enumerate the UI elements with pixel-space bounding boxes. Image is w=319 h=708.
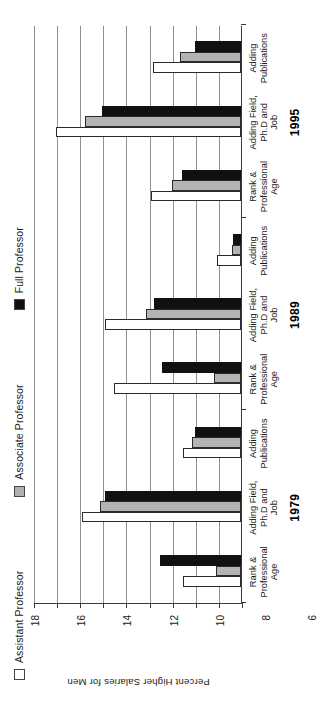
y-axis-tick: 2 xyxy=(219,603,220,608)
legend-item-associate-professor: Associate Professor xyxy=(13,384,25,496)
bar xyxy=(146,309,241,320)
legend-item-assistant-professor: Assistant Professor xyxy=(13,571,25,680)
category-label-line: Publications xyxy=(259,26,270,90)
y-axis-tick: 16 xyxy=(57,603,58,608)
y-axis-tick: 18 xyxy=(34,603,35,608)
category-label-line: Rank & xyxy=(248,154,259,218)
x-axis-tick xyxy=(241,217,246,218)
y-axis-tick-label: 10 xyxy=(214,615,225,626)
bar xyxy=(232,245,241,256)
bar xyxy=(162,362,241,373)
chart-legend: Assistant Professor Associate Professor … xyxy=(6,18,32,688)
x-axis-category-label: AddingPublications xyxy=(248,26,269,90)
bar xyxy=(182,170,241,181)
bar xyxy=(114,383,241,394)
category-label-line: Publications xyxy=(259,411,270,475)
bar xyxy=(183,448,241,459)
bar xyxy=(105,491,241,502)
y-axis-tick: 14 xyxy=(80,603,81,608)
legend-label-associate-professor: Associate Professor xyxy=(13,384,25,479)
bar xyxy=(85,116,241,127)
group-year-label: 1979 xyxy=(288,411,302,604)
category-label-line: Job xyxy=(269,476,280,540)
x-axis-category-label: Adding Field,Ph.D andJob xyxy=(248,476,280,540)
category-label-line: Job xyxy=(269,90,280,154)
category-label-line: Rank & xyxy=(248,347,259,411)
bar xyxy=(102,106,241,117)
bar xyxy=(216,566,241,577)
group-year-label: 1989 xyxy=(288,219,302,412)
legend-label-assistant-professor: Assistant Professor xyxy=(13,571,25,663)
gridline xyxy=(34,26,35,603)
y-axis-tick-label: 18 xyxy=(30,615,41,626)
bar xyxy=(192,437,241,448)
category-label-line: Adding Field, xyxy=(248,476,259,540)
category-label-line: Adding xyxy=(248,411,259,475)
y-axis-tick: 8 xyxy=(150,603,151,608)
category-label-line: Age xyxy=(269,347,280,411)
y-axis-tick-label: 12 xyxy=(168,615,179,626)
plot-area: 024681012141618 xyxy=(34,26,242,604)
x-axis-category-label: AddingPublications xyxy=(248,219,269,283)
x-axis-tick xyxy=(241,602,246,603)
x-axis-category-label: Adding Field,Ph.D andJob xyxy=(248,283,280,347)
y-axis-tick: 4 xyxy=(196,603,197,608)
bar xyxy=(151,191,241,202)
category-label-line: Job xyxy=(269,283,280,347)
y-axis-tick: 12 xyxy=(103,603,104,608)
y-axis-tick: 10 xyxy=(126,603,127,608)
bar xyxy=(154,298,241,309)
bar xyxy=(183,576,241,587)
category-label-line: Adding Field, xyxy=(248,283,259,347)
bar xyxy=(105,319,241,330)
x-axis-category-label: Rank &ProfessionalAge xyxy=(248,347,280,411)
bar xyxy=(195,41,241,52)
category-label-line: Professional xyxy=(259,347,270,411)
y-axis-tick-label: 8 xyxy=(261,615,272,621)
white-square-icon xyxy=(14,669,25,680)
category-label-line: Ph.D and xyxy=(259,476,270,540)
bar xyxy=(195,427,241,438)
y-axis-tick-label: 6 xyxy=(307,615,318,621)
category-label-line: Publications xyxy=(259,219,270,283)
bar xyxy=(100,501,241,512)
category-label-line: Ph.D and xyxy=(259,90,270,154)
bar xyxy=(153,62,241,73)
bar xyxy=(217,255,241,266)
bar xyxy=(160,555,241,566)
category-label-line: Adding xyxy=(248,26,259,90)
bar xyxy=(56,127,241,138)
x-axis-tick xyxy=(241,409,246,410)
x-axis-category-label: AddingPublications xyxy=(248,411,269,475)
category-label-line: Professional xyxy=(259,154,270,218)
group-year-label: 1995 xyxy=(288,26,302,219)
rotated-figure-wrapper: Assistant Professor Associate Professor … xyxy=(0,0,319,708)
category-label-line: Professional xyxy=(259,540,270,604)
x-axis-category-label: Rank &ProfessionalAge xyxy=(248,154,280,218)
x-axis-category-label: Rank &ProfessionalAge xyxy=(248,540,280,604)
category-label-line: Rank & xyxy=(248,540,259,604)
y-axis-tick-label: 16 xyxy=(76,615,87,626)
bar xyxy=(180,52,241,63)
y-axis-title: Percent Higher Salaries for Men xyxy=(34,676,242,690)
x-axis-tick xyxy=(241,24,246,25)
bar xyxy=(82,512,241,523)
x-axis-category-label: Adding Field,Ph.D andJob xyxy=(248,90,280,154)
chart-figure: Assistant Professor Associate Professor … xyxy=(0,0,319,708)
category-label-line: Ph.D and xyxy=(259,283,270,347)
gridline xyxy=(57,26,58,603)
y-axis-tick: 0 xyxy=(242,603,243,608)
y-axis-tick-label: 14 xyxy=(122,615,133,626)
black-square-icon xyxy=(14,299,25,310)
bar xyxy=(233,234,241,245)
y-axis-title-text: Percent Higher Salaries for Men xyxy=(67,678,210,689)
gray-square-icon xyxy=(14,486,25,497)
bar xyxy=(214,373,241,384)
y-axis-tick: 6 xyxy=(173,603,174,608)
category-label-line: Adding xyxy=(248,219,259,283)
category-label-line: Age xyxy=(269,154,280,218)
category-label-line: Age xyxy=(269,540,280,604)
legend-label-full-professor: Full Professor xyxy=(13,227,25,293)
category-label-line: Adding Field, xyxy=(248,90,259,154)
legend-item-full-professor: Full Professor xyxy=(13,227,25,310)
